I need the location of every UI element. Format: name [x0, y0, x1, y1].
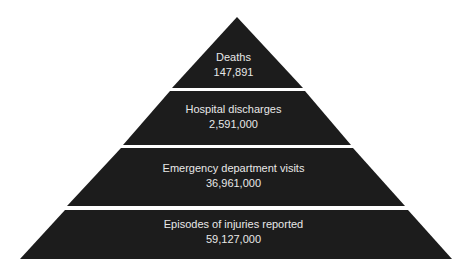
pyramid-level-1: Deaths 147,891 [0, 50, 467, 80]
level-value: 59,127,000 [0, 232, 467, 247]
level-label: Episodes of injuries reported [0, 217, 467, 232]
pyramid-level-2: Hospital discharges 2,591,000 [0, 102, 467, 132]
level-label: Emergency department visits [0, 161, 467, 176]
pyramid-level-3: Emergency department visits 36,961,000 [0, 161, 467, 191]
level-label: Deaths [0, 50, 467, 65]
level-value: 36,961,000 [0, 176, 467, 191]
level-value: 2,591,000 [0, 117, 467, 132]
pyramid-level-4: Episodes of injuries reported 59,127,000 [0, 217, 467, 247]
level-label: Hospital discharges [0, 102, 467, 117]
level-value: 147,891 [0, 65, 467, 80]
